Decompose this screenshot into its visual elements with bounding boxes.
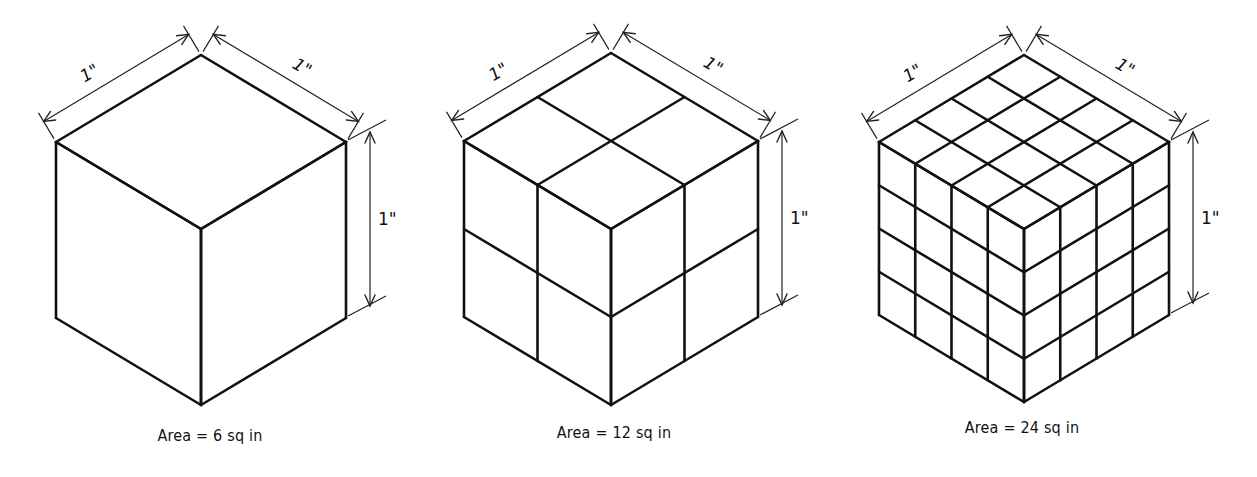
arrowhead-icon: [758, 110, 770, 120]
cube-2-area-caption: Area = 12 sq in: [557, 423, 672, 442]
right-face-grid-line: [201, 318, 346, 405]
dimension-label-top-right: 1": [1112, 53, 1138, 80]
left-face-grid-line: [56, 142, 201, 229]
cube-1-drawing: 1"1"1": [39, 26, 397, 405]
arrowhead-icon: [1036, 34, 1048, 44]
dimension-line-top-right: [213, 34, 358, 121]
cube-3-area-caption: Area = 24 sq in: [965, 418, 1080, 437]
dimension-label-vertical: 1": [790, 208, 809, 228]
arrowhead-icon: [346, 111, 358, 121]
left-face-grid-line: [56, 318, 201, 405]
cube-3-drawing: 1"1"1": [862, 26, 1220, 402]
arrowhead-icon: [452, 110, 464, 120]
dimension-line-top-left: [452, 32, 599, 120]
arrowhead-icon: [587, 32, 599, 42]
dimension-line-top-left: [44, 34, 189, 121]
dimension-label-top-left: 1": [899, 60, 925, 87]
arrowhead-icon: [44, 111, 56, 121]
right-face-grid-line: [201, 142, 346, 229]
isometric-cubes-figure: 1"1"1" 1"1"1" 1"1"1": [0, 0, 1257, 477]
dimension-label-vertical: 1": [378, 209, 397, 229]
dimension-label-top-left: 1": [485, 58, 511, 85]
cube-1-area-caption: Area = 6 sq in: [157, 426, 262, 445]
dimension-label-vertical: 1": [1201, 208, 1220, 228]
arrowhead-icon: [1169, 111, 1181, 121]
arrowhead-icon: [623, 32, 635, 42]
arrowhead-icon: [1000, 34, 1012, 44]
dimension-line-top-right: [623, 32, 770, 120]
arrowhead-icon: [177, 34, 189, 44]
dimension-label-top-left: 1": [76, 60, 102, 87]
arrowhead-icon: [213, 34, 225, 44]
cube-2-drawing: 1"1"1": [447, 24, 809, 405]
top-face-grid-line: [201, 55, 346, 142]
dimension-label-top-right: 1": [700, 52, 726, 79]
dimension-label-top-right: 1": [289, 53, 315, 80]
arrowhead-icon: [867, 111, 879, 121]
